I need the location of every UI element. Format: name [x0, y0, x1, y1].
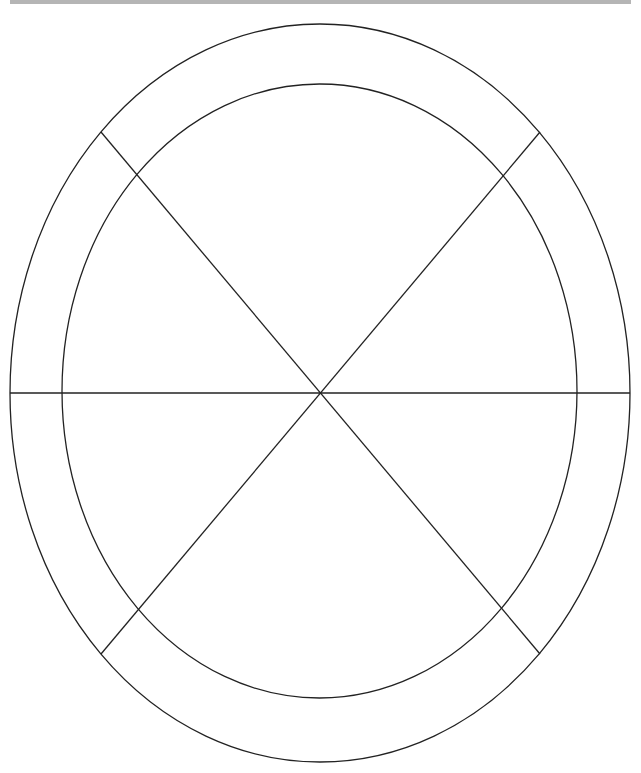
divider-lines — [10, 132, 630, 654]
segmented-ellipse-diagram — [0, 0, 641, 773]
